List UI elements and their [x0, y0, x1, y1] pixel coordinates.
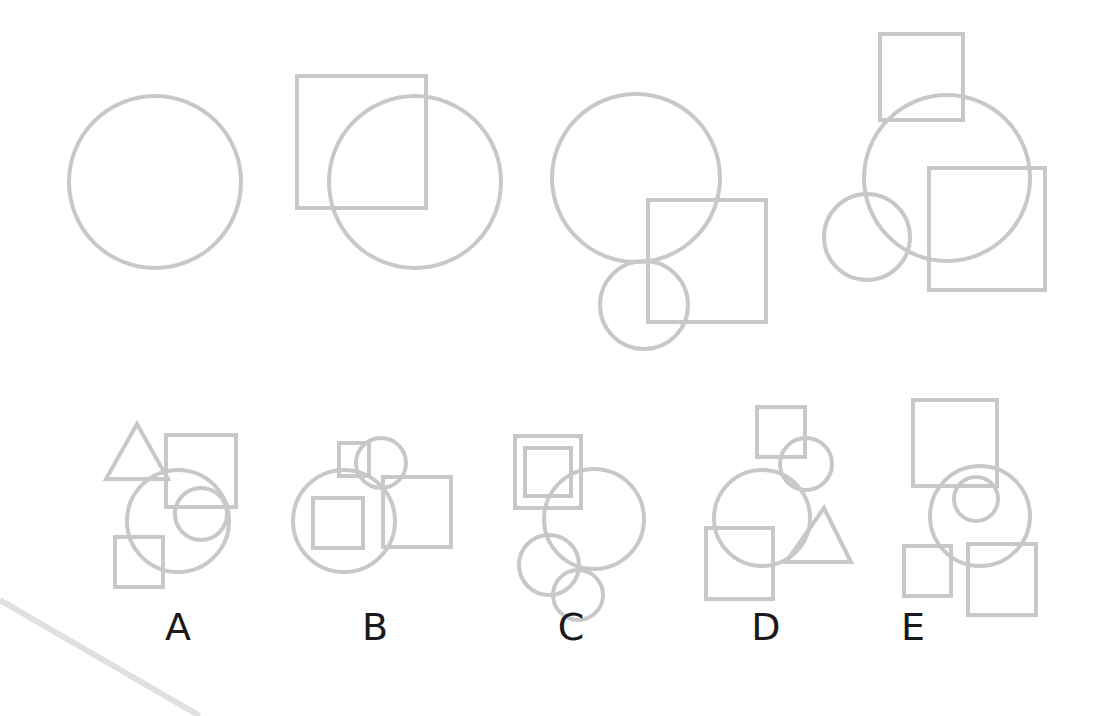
answer-options — [106, 400, 1036, 620]
option-figure-c[interactable] — [515, 436, 644, 620]
option-e-circle-shape — [930, 466, 1030, 566]
option-d-rect-shape — [706, 528, 773, 599]
option-a-circle-shape — [175, 488, 227, 540]
option-label-e[interactable]: E — [901, 608, 925, 646]
option-figure-e[interactable] — [904, 400, 1036, 615]
option-e-circle-shape — [954, 477, 998, 521]
option-e-rect-shape — [904, 546, 951, 596]
option-a-triangle-shape — [106, 424, 168, 479]
sequence-4-circle-shape — [824, 194, 910, 280]
option-c-rect-shape — [525, 448, 571, 496]
option-figure-d[interactable] — [706, 407, 851, 599]
sequence-1-circle-shape — [69, 96, 241, 268]
sequence-3-circle-shape — [552, 94, 720, 262]
option-b-rect-shape — [313, 498, 363, 548]
option-label-d[interactable]: D — [751, 608, 780, 646]
option-e-rect-shape — [968, 544, 1036, 615]
sequence-3-circle-shape — [600, 261, 688, 349]
option-figure-b[interactable] — [293, 438, 451, 572]
option-figure-a[interactable] — [106, 424, 236, 587]
option-label-c[interactable]: C — [558, 608, 585, 646]
option-label-a[interactable]: A — [165, 608, 191, 646]
option-b-circle-shape — [293, 470, 395, 572]
sequence-4-rect-shape — [880, 34, 963, 120]
sequence-figure-1 — [69, 96, 241, 268]
sequence-figure-2 — [297, 76, 501, 268]
sequence-figures — [69, 34, 1045, 349]
option-d-rect-shape — [757, 407, 805, 457]
sequence-figure-3 — [552, 94, 766, 349]
option-label-b[interactable]: B — [362, 608, 388, 646]
option-c-circle-shape — [544, 469, 644, 569]
sequence-2-circle-shape — [329, 96, 501, 268]
option-a-rect-shape — [115, 537, 163, 587]
sequence-figure-4 — [824, 34, 1045, 290]
sequence-3-rect-shape — [648, 200, 766, 322]
